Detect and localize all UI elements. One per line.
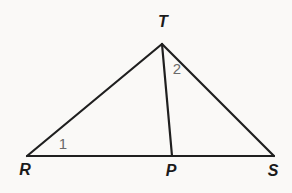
triangle-diagram: TRPS12 [0,0,292,193]
vertex-label-R: R [19,161,31,178]
angle-label-2: 2 [173,60,181,77]
angle-label-1: 1 [59,135,67,152]
segment-RT [27,44,162,156]
vertex-label-P: P [166,162,177,179]
vertex-label-T: T [158,13,169,30]
vertex-label-S: S [268,162,279,179]
geometry-figure: TRPS12 [0,0,292,193]
segment-TP [162,44,172,156]
